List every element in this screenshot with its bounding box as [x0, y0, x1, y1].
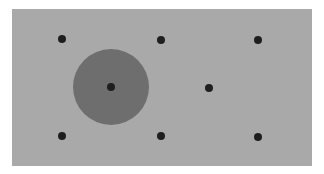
dot: [58, 132, 66, 140]
gray-panel: [12, 9, 312, 166]
diagram-canvas: [0, 0, 324, 174]
dot: [157, 132, 165, 140]
dot: [58, 35, 66, 43]
dot: [107, 83, 115, 91]
dot: [205, 84, 213, 92]
dot: [254, 36, 262, 44]
dot: [157, 36, 165, 44]
dot: [254, 133, 262, 141]
